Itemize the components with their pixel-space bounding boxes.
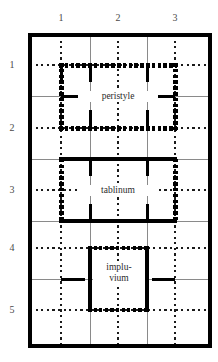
- column-label-3: 3: [165, 12, 185, 23]
- row-label-1: 1: [4, 59, 20, 70]
- row-label-5: 5: [4, 304, 20, 315]
- tablinum-label: tablinum: [78, 185, 158, 196]
- column-label-2: 2: [108, 12, 128, 23]
- row-label-3: 3: [4, 184, 20, 195]
- column-label-1: 1: [51, 12, 71, 23]
- row-label-2: 2: [4, 122, 20, 133]
- impluvium-label-line2: vium: [93, 273, 145, 284]
- plan-background: [0, 0, 218, 362]
- impluvium-label: implu- vium: [93, 262, 145, 284]
- row-label-4: 4: [4, 242, 20, 253]
- impluvium-label-line1: implu-: [93, 262, 145, 273]
- peristyle-label: peristyle: [78, 91, 158, 102]
- floor-plan-diagram: [0, 0, 218, 362]
